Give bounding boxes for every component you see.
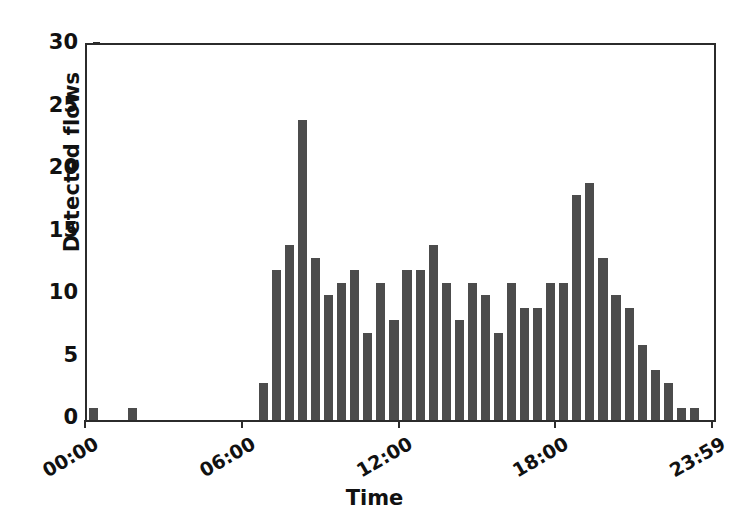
bar	[337, 283, 346, 421]
x-tick-label: 12:00	[342, 432, 415, 487]
bar	[559, 283, 568, 421]
bar	[311, 258, 320, 421]
bar	[546, 283, 555, 421]
bar	[585, 183, 594, 421]
x-tick-mark	[711, 420, 713, 428]
bar	[520, 308, 529, 421]
bar	[494, 333, 503, 421]
x-tick-mark	[554, 420, 556, 428]
y-tick-label: 0	[18, 407, 78, 428]
bar	[677, 408, 686, 421]
bar	[468, 283, 477, 421]
bars-layer	[87, 45, 714, 420]
x-tick-label: 23:59	[656, 432, 729, 487]
bar	[611, 295, 620, 420]
bar	[507, 283, 516, 421]
y-tick-label: 20	[18, 157, 78, 178]
bar	[402, 270, 411, 420]
bar	[625, 308, 634, 421]
y-axis-ticks: 051015202530	[8, 0, 78, 520]
bar	[651, 370, 660, 420]
bar	[533, 308, 542, 421]
x-tick-mark	[241, 420, 243, 428]
bar	[376, 283, 385, 421]
bar	[363, 333, 372, 421]
y-tick-label: 30	[18, 32, 78, 53]
x-tick-mark	[84, 420, 86, 428]
chart-figure: Detected flows 051015202530 Time 00:0006…	[0, 0, 749, 520]
x-tick-mark	[398, 420, 400, 428]
bar	[455, 320, 464, 420]
bar	[442, 283, 451, 421]
bar	[259, 383, 268, 421]
bar	[89, 408, 98, 421]
x-tick-label: 18:00	[499, 432, 572, 487]
bar	[324, 295, 333, 420]
x-axis-title: Time	[0, 486, 749, 510]
y-tick-label: 10	[18, 282, 78, 303]
bar	[272, 270, 281, 420]
y-tick-label: 5	[18, 345, 78, 366]
bar	[638, 345, 647, 420]
x-tick-label: 06:00	[185, 432, 258, 487]
bar	[416, 270, 425, 420]
bar	[298, 120, 307, 420]
bar	[572, 195, 581, 420]
bar	[429, 245, 438, 420]
bar	[481, 295, 490, 420]
bar	[350, 270, 359, 420]
y-tick-label: 15	[18, 220, 78, 241]
y-tick-label: 25	[18, 95, 78, 116]
bar	[598, 258, 607, 421]
bar	[389, 320, 398, 420]
plot-area	[85, 43, 716, 422]
bar	[664, 383, 673, 421]
bar	[690, 408, 699, 421]
bar	[285, 245, 294, 420]
bar	[128, 408, 137, 421]
